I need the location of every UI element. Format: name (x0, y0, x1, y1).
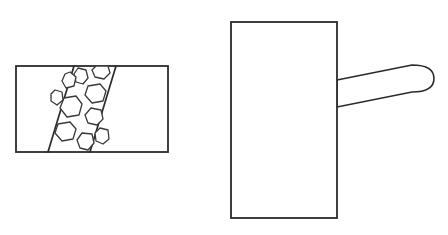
right-rectangle-outline (231, 22, 337, 218)
technical-drawing-canvas (0, 0, 448, 235)
left-figure (16, 66, 168, 152)
